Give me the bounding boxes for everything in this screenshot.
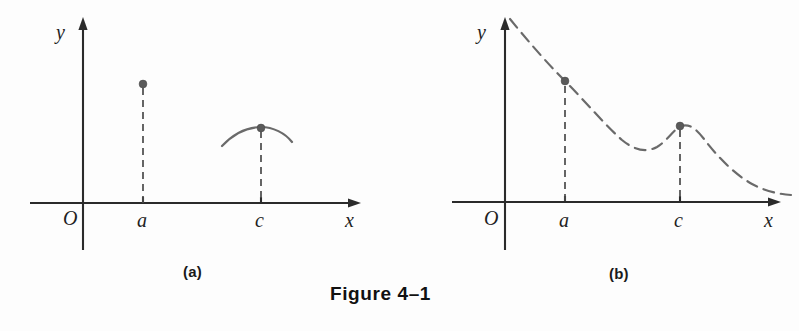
- panel-b-y-axis-label: y: [475, 21, 486, 44]
- panel-a-arc-near-c: [222, 127, 292, 146]
- panel-a-x-axis-arrowhead: [348, 198, 361, 207]
- panel-b-x-axis-arrowhead: [768, 197, 781, 206]
- panel-a-tick-label-a: a: [137, 209, 147, 231]
- panel-a-y-axis-label: y: [54, 21, 65, 44]
- panel-a-origin-label: O: [63, 207, 77, 229]
- panel-b-point-at-a: [561, 77, 569, 85]
- panel-a-x-axis-label: x: [344, 209, 354, 231]
- panel-a-tick-label-c: c: [255, 209, 264, 231]
- panel-sublabel-a: (a): [183, 263, 202, 280]
- panel-b-origin-label: O: [484, 207, 498, 229]
- panel-b-x-axis-label: x: [763, 209, 773, 231]
- figure-caption: Figure 4–1: [330, 283, 431, 305]
- panel-b-point-at-c: [676, 122, 684, 130]
- panel-a-point-at-c: [257, 124, 265, 132]
- panel-a-point-at-a: [139, 80, 147, 88]
- panel-b-graph: y x O a c: [452, 17, 791, 250]
- panel-b-y-axis-arrowhead: [500, 17, 509, 30]
- panel-b-tick-label-a: a: [559, 209, 569, 231]
- panel-sublabel-b: (b): [609, 265, 629, 282]
- panel-b-tick-label-c: c: [674, 209, 683, 231]
- panel-a-y-axis-arrowhead: [78, 17, 87, 30]
- panel-a-graph: y x O a c: [30, 17, 361, 250]
- figure-container: y x O a c y x: [0, 0, 799, 331]
- panel-b-curve-f: [510, 19, 791, 195]
- figure-graphics: y x O a c y x: [0, 0, 799, 331]
